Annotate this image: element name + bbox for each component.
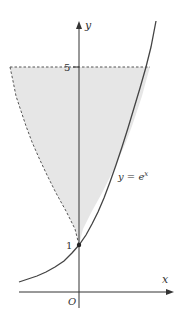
curve-label-base: y = e [117,171,144,182]
diagram: y x O 5 1 y = ex [0,0,183,325]
shaded-region [10,67,150,245]
tick-label-1: 1 [66,240,72,251]
y-axis-label: y [84,19,92,32]
curve-label-exp: x [144,170,148,178]
origin-label: O [68,296,76,307]
point-0-1 [77,243,81,247]
curve-label: y = ex [117,170,148,182]
tick-label-5: 5 [64,62,70,73]
x-axis-arrow-icon [166,289,174,295]
x-axis-label: x [162,273,169,286]
y-axis-arrow-icon [76,21,82,29]
